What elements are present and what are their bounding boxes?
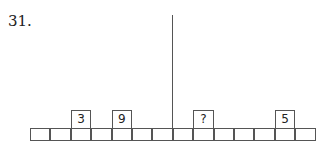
- row-cell: [132, 128, 152, 141]
- row-cell: [275, 128, 295, 141]
- row-cell: [91, 128, 111, 141]
- row-cell: [152, 128, 172, 141]
- raised-number-box: 5: [275, 110, 295, 129]
- row-cell: [214, 128, 234, 141]
- row-cell: [50, 128, 70, 141]
- question-number: 31.: [8, 12, 32, 30]
- row-cell: [193, 128, 213, 141]
- raised-number-box: 3: [71, 110, 91, 129]
- row-cell: [295, 128, 315, 141]
- row-cell: [234, 128, 254, 141]
- vertical-divider-line: [172, 15, 173, 128]
- raised-number-box: ?: [193, 110, 213, 129]
- row-cell: [30, 128, 50, 141]
- row-cell: [173, 128, 193, 141]
- row-cell: [112, 128, 132, 141]
- row-cell: [254, 128, 274, 141]
- row-cell: [71, 128, 91, 141]
- raised-number-box: 9: [112, 110, 132, 129]
